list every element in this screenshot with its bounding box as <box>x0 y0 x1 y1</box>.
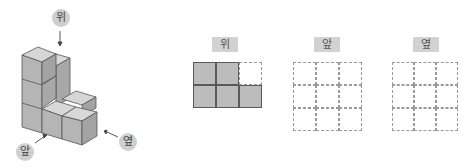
front-view-label: 앞 <box>314 37 340 52</box>
grid-cell[interactable] <box>436 85 458 108</box>
side-view-grid <box>392 62 458 131</box>
grid-cell[interactable] <box>216 85 239 108</box>
grid-cell[interactable] <box>216 62 239 85</box>
grid-cell[interactable] <box>193 62 216 85</box>
grid-cell[interactable] <box>414 85 436 108</box>
grid-cell[interactable] <box>392 62 414 85</box>
grid-cell[interactable] <box>293 62 316 85</box>
top-view-grid <box>193 62 262 108</box>
grid-cell[interactable] <box>316 62 339 85</box>
grid-cell[interactable] <box>293 108 316 131</box>
grid-cell[interactable] <box>414 62 436 85</box>
grid-cell[interactable] <box>193 85 216 108</box>
grid-cell[interactable] <box>316 108 339 131</box>
top-view-marker: 위 <box>52 9 70 27</box>
front-view-grid <box>293 62 362 131</box>
grid-cell[interactable] <box>293 85 316 108</box>
grid-cell[interactable] <box>436 108 458 131</box>
grid-cell[interactable] <box>392 85 414 108</box>
grid-cell[interactable] <box>316 85 339 108</box>
side-view-marker: 옆 <box>119 133 137 151</box>
top-view-label: 위 <box>212 37 238 52</box>
front-view-marker: 앞 <box>16 143 34 161</box>
grid-cell[interactable] <box>392 108 414 131</box>
grid-cell[interactable] <box>339 62 362 85</box>
grid-cell[interactable] <box>239 85 262 108</box>
cube-stack-figure: 위 앞 옆 <box>0 0 160 168</box>
side-view-label: 옆 <box>413 37 439 52</box>
grid-cell[interactable] <box>414 108 436 131</box>
grid-cell[interactable] <box>436 62 458 85</box>
grid-cell[interactable] <box>339 108 362 131</box>
grid-cell[interactable] <box>239 62 262 85</box>
grid-cell[interactable] <box>339 85 362 108</box>
